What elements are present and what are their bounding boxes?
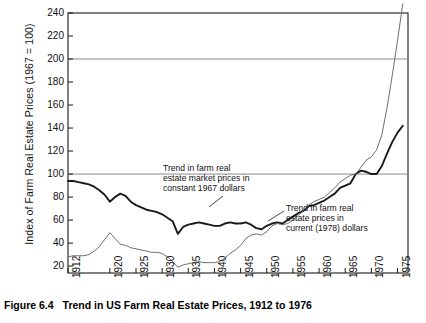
x-tick-label-1970: 1970 [375, 256, 385, 278]
annotation-constant-line-3: constant 1967 dollars [163, 183, 249, 193]
x-tick-label-1950: 1950 [271, 256, 281, 278]
x-tick-label-1955: 1955 [297, 256, 307, 278]
x-tick-label-1960: 1960 [323, 256, 333, 278]
x-tick-label-1940: 1940 [218, 256, 228, 278]
x-tick-label-1975: 1975 [402, 256, 412, 278]
annotation-current-line-3: current (1978) dollars [286, 223, 368, 233]
x-tick-label-1945: 1945 [245, 256, 255, 278]
x-tick-label-1965: 1965 [349, 256, 359, 278]
x-tick-label-1935: 1935 [192, 256, 202, 278]
x-tick-label-1930: 1930 [166, 256, 176, 278]
figure-caption-label: Figure 6.4 [4, 299, 54, 311]
figure-caption: Figure 6.4Trend in US Farm Real Estate P… [4, 299, 312, 311]
annotation-current-line-1: Trend in farm real [286, 203, 368, 213]
x-tick-label-1925: 1925 [140, 256, 150, 278]
annotation-constant-dollars: Trend in farm realestate market prices i… [163, 163, 249, 194]
x-tick-label-1912: 1912 [72, 256, 82, 278]
annotation-current-dollars: Trend in farm realestate prices incurren… [286, 203, 368, 234]
x-axis-tick-labels: 1912192019251930193519401945195019551960… [0, 0, 426, 323]
annotation-constant-line-2: estate market prices in [163, 173, 249, 183]
figure-caption-title: Trend in US Farm Real Estate Prices, 191… [63, 299, 312, 311]
annotation-current-line-2: estate prices in [286, 213, 368, 223]
x-tick-label-1920: 1920 [114, 256, 124, 278]
figure-container: Index of Farm Real Estate Prices (1967 =… [0, 0, 426, 323]
annotation-constant-line-1: Trend in farm real [163, 163, 249, 173]
